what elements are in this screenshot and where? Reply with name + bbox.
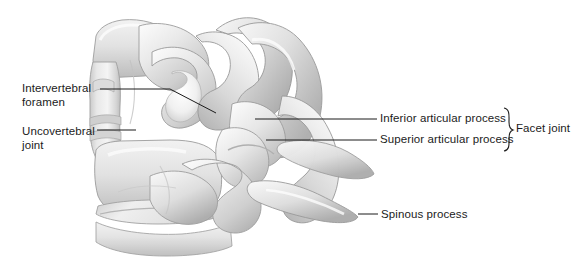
label-superior-articular-process: Superior articular process [380, 132, 514, 146]
upper-spinous-process [277, 140, 374, 178]
label-facet-joint: Facet joint [516, 121, 570, 135]
anatomy-figure: Intervertebral foramen Uncovertebral joi… [0, 0, 581, 270]
label-spinous-process: Spinous process [381, 207, 468, 221]
label-uncovertebral-joint: Uncovertebral joint [22, 124, 95, 152]
label-inferior-articular-process: Inferior articular process [380, 111, 506, 125]
label-intervertebral-foramen: Intervertebral foramen [22, 81, 91, 109]
bone-shapes [90, 18, 374, 256]
lower-vertebral-body-edge [96, 222, 232, 256]
